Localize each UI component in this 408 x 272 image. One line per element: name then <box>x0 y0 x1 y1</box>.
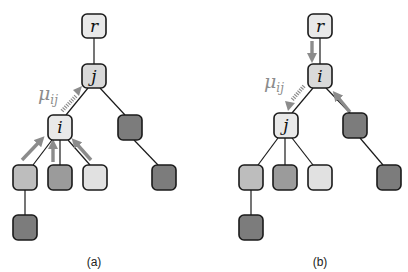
edge-i-c3 <box>68 140 90 165</box>
mu-label: μij <box>38 82 58 107</box>
node-child-3 <box>308 165 332 190</box>
caption-a: (a) <box>87 255 102 269</box>
message-mu-dashed-arrow-icon <box>292 86 304 100</box>
node-right <box>343 113 367 138</box>
message-arrow-icon <box>336 95 350 112</box>
arrowhead-icon <box>73 86 82 96</box>
node-child-2 <box>48 165 72 190</box>
panel-a: μij r j i (a) <box>13 14 176 269</box>
caption-b: (b) <box>313 255 328 269</box>
edge-j-right <box>100 88 125 115</box>
node-root-label: r <box>90 16 99 36</box>
node-child-1 <box>13 165 37 190</box>
edge-right-lower <box>134 140 158 165</box>
node-i-label: i <box>317 66 322 86</box>
edge-j-c1 <box>258 138 278 165</box>
node-child-2 <box>273 165 297 190</box>
message-arrow-icon <box>22 140 41 160</box>
arrowhead-icon <box>285 101 295 111</box>
edge-j-c3 <box>292 138 313 165</box>
edge-right-lower <box>360 138 383 165</box>
message-mu-dashed-arrow-icon <box>62 96 76 111</box>
node-root-label: r <box>316 16 325 36</box>
node-grandchild <box>13 215 37 240</box>
node-right-lower <box>152 165 176 190</box>
edge-i-j <box>292 88 313 113</box>
factor-graph-diagram: μij r j i (a) μij r <box>0 0 408 272</box>
node-right <box>118 115 142 140</box>
node-grandchild <box>239 215 263 240</box>
mu-label: μij <box>264 70 284 95</box>
node-child-1 <box>239 165 263 190</box>
panel-b: μij r i j (b) <box>239 14 401 269</box>
node-child-3 <box>83 165 107 190</box>
node-right-lower <box>377 165 401 190</box>
node-i-label: i <box>57 117 62 137</box>
